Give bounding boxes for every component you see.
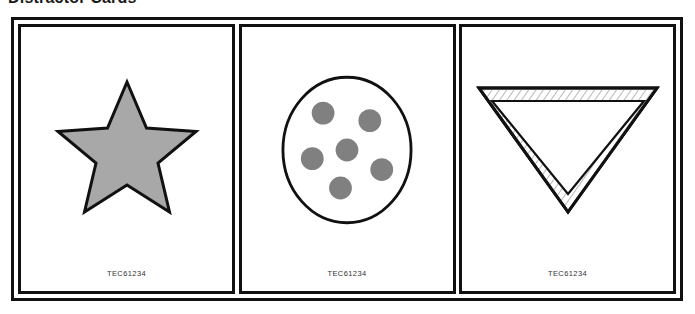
card-figure-area (242, 27, 453, 269)
card-figure-area (462, 27, 673, 269)
dot-center (336, 139, 359, 162)
star-shape (52, 76, 202, 224)
dot-upper-left (312, 102, 335, 125)
page-title: Distractor Cards (8, 0, 137, 7)
dot-mid-right (370, 158, 393, 181)
dot-upper-right (358, 109, 381, 132)
card-code-label: TEC61234 (21, 269, 232, 291)
distractor-card-star[interactable]: TEC61234 (18, 24, 235, 294)
card-frame: TEC61234 TEC61234 (11, 17, 683, 301)
distractor-card-hatched-triangle[interactable]: TEC61234 (459, 24, 676, 294)
card-code-label: TEC61234 (462, 269, 673, 291)
card-code-label: TEC61234 (242, 269, 453, 291)
dot-bottom-center (329, 177, 352, 200)
card-figure-area (21, 27, 232, 269)
dot-mid-left (301, 147, 324, 170)
hatched-triangle-shape (475, 82, 661, 218)
dotted-circle-shape (271, 74, 423, 226)
distractor-card-dotted-circle[interactable]: TEC61234 (239, 24, 456, 294)
